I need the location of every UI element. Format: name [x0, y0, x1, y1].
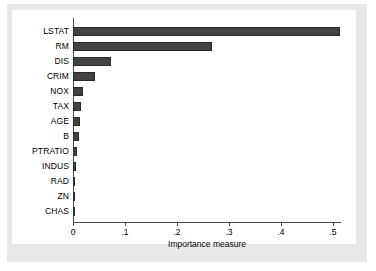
x-tick-mark-5	[333, 222, 334, 226]
bar-nox	[73, 87, 83, 96]
category-label-dis: DIS	[55, 56, 69, 66]
x-tick-mark-2	[177, 222, 178, 226]
bar-rad	[73, 177, 75, 186]
bar-ptratio	[73, 147, 77, 156]
bar-crim	[73, 72, 95, 81]
bar-row: ZN	[0, 189, 376, 204]
category-label-chas: CHAS	[45, 206, 69, 216]
category-label-crim: CRIM	[47, 71, 69, 81]
bar-rm	[73, 42, 212, 51]
bar-indus	[73, 162, 76, 171]
x-tick-label-5: .5	[329, 227, 336, 237]
bar-row: RM	[0, 39, 376, 54]
x-tick-label-4: .4	[277, 227, 284, 237]
bar-row: AGE	[0, 114, 376, 129]
bar-row: LSTAT	[0, 24, 376, 39]
x-tick-mark-4	[281, 222, 282, 226]
x-tick-mark-3	[229, 222, 230, 226]
bar-row: DIS	[0, 54, 376, 69]
bar-b	[73, 132, 79, 141]
bar-row: NOX	[0, 84, 376, 99]
category-label-b: B	[63, 131, 69, 141]
category-label-rad: RAD	[51, 176, 69, 186]
x-tick-label-0: 0	[71, 227, 76, 237]
bar-row: B	[0, 129, 376, 144]
category-label-ptratio: PTRATIO	[32, 146, 69, 156]
x-tick-label-2: .2	[173, 227, 180, 237]
bar-tax	[73, 102, 81, 111]
bar-row: CRIM	[0, 69, 376, 84]
bar-zn	[73, 192, 75, 201]
category-label-lstat: LSTAT	[43, 26, 69, 36]
category-label-rm: RM	[56, 41, 69, 51]
x-tick-label-3: .3	[225, 227, 232, 237]
bar-age	[73, 117, 80, 126]
bars-layer: LSTAT RM DIS CRIM NOX TAX AGE B	[0, 0, 376, 271]
x-tick-label-1: .1	[121, 227, 128, 237]
category-label-tax: TAX	[53, 101, 69, 111]
importance-measure-bar-chart: LSTAT RM DIS CRIM NOX TAX AGE B	[0, 0, 376, 271]
category-label-indus: INDUS	[42, 161, 69, 171]
bar-dis	[73, 57, 111, 66]
bar-row: TAX	[0, 99, 376, 114]
bar-row: CHAS	[0, 204, 376, 219]
bar-row: INDUS	[0, 159, 376, 174]
x-axis-title: Importance measure	[73, 239, 341, 249]
category-label-nox: NOX	[50, 86, 69, 96]
category-label-zn: ZN	[57, 191, 69, 201]
x-tick-mark-0	[73, 222, 74, 226]
x-tick-mark-1	[125, 222, 126, 226]
bar-chas	[73, 207, 75, 216]
bar-row: RAD	[0, 174, 376, 189]
bar-row: PTRATIO	[0, 144, 376, 159]
category-label-age: AGE	[51, 116, 69, 126]
bar-lstat	[73, 27, 340, 36]
